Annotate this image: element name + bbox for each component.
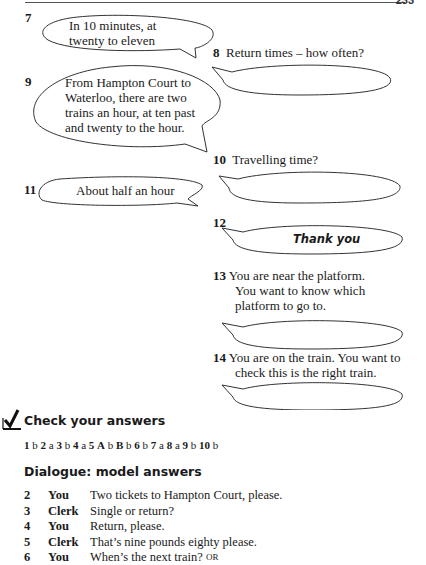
item-10-prompt-text: Travelling time? <box>232 152 318 167</box>
item-13-line: You want to know which <box>213 283 365 298</box>
dialogue-line: 3 Clerk Single or return? <box>24 504 283 520</box>
item-number-12: 12 <box>213 215 226 231</box>
bubble-7-line: In 10 minutes, at <box>69 18 156 33</box>
item-number-13: 13 <box>213 268 226 283</box>
bubble-7-text: In 10 minutes, at twenty to eleven <box>69 18 156 48</box>
answer-q: 7 <box>151 439 157 451</box>
speaker: Clerk <box>48 535 90 551</box>
item-number-11: 11 <box>24 182 36 198</box>
answer-a: b <box>65 439 71 451</box>
answer-q: 3 <box>56 439 62 451</box>
bubble-13-icon <box>222 321 402 349</box>
item-8-prompt: 8 Return times – how often? <box>213 45 364 60</box>
item-8-prompt-text: Return times – how often? <box>226 45 364 60</box>
bubble-9-line: Waterloo, there are two <box>65 90 195 105</box>
item-13-line: platform to go to. <box>213 298 365 313</box>
check-answers-heading: Check your answers <box>2 408 165 430</box>
answer-a: a <box>159 439 164 451</box>
line-number: 3 <box>24 504 48 520</box>
speaker: Clerk <box>48 504 90 520</box>
answer-a: b <box>126 439 132 451</box>
item-13-prompt: 13 You are near the platform. You want t… <box>213 268 365 313</box>
item-10-prompt: 10 Travelling time? <box>213 152 318 167</box>
dialogue-line: 2 You Two tickets to Hampton Court, plea… <box>24 488 283 504</box>
answer-q: 10 <box>199 439 210 451</box>
item-number-10: 10 <box>213 152 226 167</box>
line-text: Two tickets to Hampton Court, please. <box>90 488 283 504</box>
dialogue-title: Dialogue: model answers <box>24 464 202 479</box>
answer-a: b <box>213 439 219 451</box>
answer-a: a <box>175 439 180 451</box>
answer-q: 9 <box>183 439 189 451</box>
bubble-9-line: and twenty to the hour. <box>65 120 195 135</box>
answer-q: 2 <box>41 439 47 451</box>
dialogue-line: 5 Clerk That’s nine pounds eighty please… <box>24 535 283 551</box>
answer-a: a <box>49 439 54 451</box>
item-number-14: 14 <box>213 350 226 365</box>
bubble-7-line: twenty to eleven <box>69 33 156 48</box>
bubble-12-text: Thank you <box>293 232 360 246</box>
bubble-14-icon <box>222 383 402 410</box>
item-number-7: 7 <box>25 10 32 26</box>
item-14-line: check this is the right train. <box>213 365 400 380</box>
bubble-11-text: About half an hour <box>76 183 175 198</box>
item-number-8: 8 <box>213 45 220 60</box>
line-number: 6 <box>24 550 48 565</box>
answer-a: b <box>32 439 38 451</box>
bubble-10-icon <box>219 172 400 203</box>
checkmark-box-icon <box>2 408 22 430</box>
answer-q: 5 <box>89 439 95 451</box>
answer-q: B <box>116 439 123 451</box>
answer-a: b <box>108 439 114 451</box>
item-14-line: You are on the train. You want to <box>229 350 401 365</box>
line-suffix: OR <box>206 550 219 565</box>
answer-q: A <box>97 439 105 451</box>
answer-q: 6 <box>134 439 140 451</box>
dialogue-line: 4 You Return, please. <box>24 519 283 535</box>
line-number: 5 <box>24 535 48 551</box>
bubble-9-line: trains an hour, at ten past <box>65 105 195 120</box>
dialogue-line: 6 You When’s the next train? OR <box>24 550 283 565</box>
check-answers-title: Check your answers <box>24 413 165 428</box>
speaker: You <box>48 550 90 565</box>
bubble-9-text: From Hampton Court to Waterloo, there ar… <box>65 75 195 135</box>
item-14-prompt: 14 You are on the train. You want to che… <box>213 350 400 380</box>
item-number-9: 9 <box>25 74 32 90</box>
answer-a: b <box>143 439 149 451</box>
speaker: You <box>48 488 90 504</box>
answer-a: b <box>191 439 197 451</box>
answer-q: 8 <box>167 439 173 451</box>
speech-bubbles <box>0 0 426 410</box>
line-text: When’s the next train? <box>90 550 203 565</box>
answer-key: 1 b 2 a 3 b 4 a 5 A b B b 6 b 7 a 8 a 9 … <box>24 439 218 451</box>
dialogue-lines: 2 You Two tickets to Hampton Court, plea… <box>24 488 283 565</box>
line-number: 2 <box>24 488 48 504</box>
bubble-8-icon <box>212 65 391 95</box>
line-text: That’s nine pounds eighty please. <box>90 535 257 551</box>
line-text: Return, please. <box>90 519 165 535</box>
line-text: Single or return? <box>90 504 174 520</box>
bubble-9-line: From Hampton Court to <box>65 75 195 90</box>
speaker: You <box>48 519 90 535</box>
answer-q: 4 <box>73 439 79 451</box>
line-number: 4 <box>24 519 48 535</box>
item-13-line: You are near the platform. <box>229 268 365 283</box>
answer-q: 1 <box>24 439 30 451</box>
answer-a: a <box>81 439 86 451</box>
